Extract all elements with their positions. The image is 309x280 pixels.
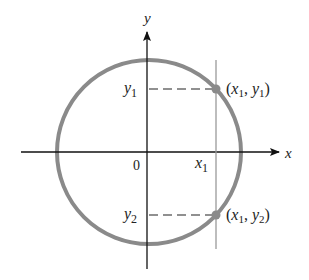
y-axis-label: y xyxy=(142,10,151,26)
x1-tick-label: x1 xyxy=(194,154,208,175)
y1-tick-label: y1 xyxy=(122,79,137,100)
point-x1-y1 xyxy=(212,85,221,94)
origin-label: 0 xyxy=(133,158,140,173)
point-label-x1-y1: (x1, y1) xyxy=(226,80,270,99)
y2-tick-label: y2 xyxy=(122,205,137,226)
point-x1-y2 xyxy=(212,211,221,220)
circle-vertical-line-test-diagram: y x 0 x1 y1 y2 (x1, y1) (x1, y2) xyxy=(0,0,309,280)
point-label-x1-y2: (x1, y2) xyxy=(226,206,270,225)
x-axis-label: x xyxy=(284,145,292,161)
